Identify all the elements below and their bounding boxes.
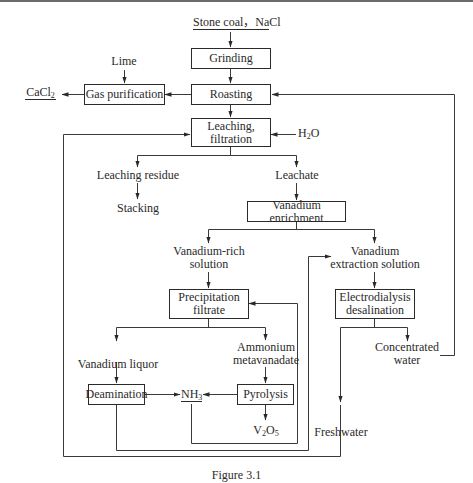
roasting-box: Roasting xyxy=(191,84,271,105)
water-label: H2O xyxy=(298,127,328,140)
figure-caption: Figure 3.1 xyxy=(0,468,473,483)
vanadium-liquor-label: Vanadium liquor xyxy=(76,358,160,371)
pyrolysis-box: Pyrolysis xyxy=(237,384,294,405)
vanadium-extraction-solution-label: Vanadium extraction solution xyxy=(330,245,420,271)
feed-label: Stone coal，NaCl xyxy=(193,16,269,30)
electrodialysis-box: Electrodialysis desalination xyxy=(335,289,415,319)
stacking-label: Stacking xyxy=(112,202,164,215)
leachate-label: Leachate xyxy=(270,169,324,182)
gas-purification-box: Gas purification xyxy=(84,84,165,105)
cacl2-label: CaCl2 xyxy=(25,86,56,100)
leaching-filtration-box: Leaching, filtration xyxy=(191,118,271,147)
precipitation-filtrate-box: Precipitation filtrate xyxy=(169,289,249,319)
leaching-residue-label: Leaching residue xyxy=(92,169,184,182)
lime-label: Lime xyxy=(104,55,144,68)
vanadium-enrichment-box: Vanadium enrichment xyxy=(247,201,346,222)
ammonium-metavanadate-label: Ammonium metavanadate xyxy=(232,341,300,367)
grinding-box: Grinding xyxy=(191,48,271,69)
v2o5-label: V2O5 xyxy=(250,424,282,437)
freshwater-label: Freshwater xyxy=(314,426,368,439)
deamination-box: Deamination xyxy=(88,384,145,405)
nh3-label: NH3 xyxy=(181,388,202,402)
vanadium-rich-solution-label: Vanadium-rich solution xyxy=(168,245,250,271)
concentrated-water-label: Concentrated water xyxy=(374,341,440,367)
